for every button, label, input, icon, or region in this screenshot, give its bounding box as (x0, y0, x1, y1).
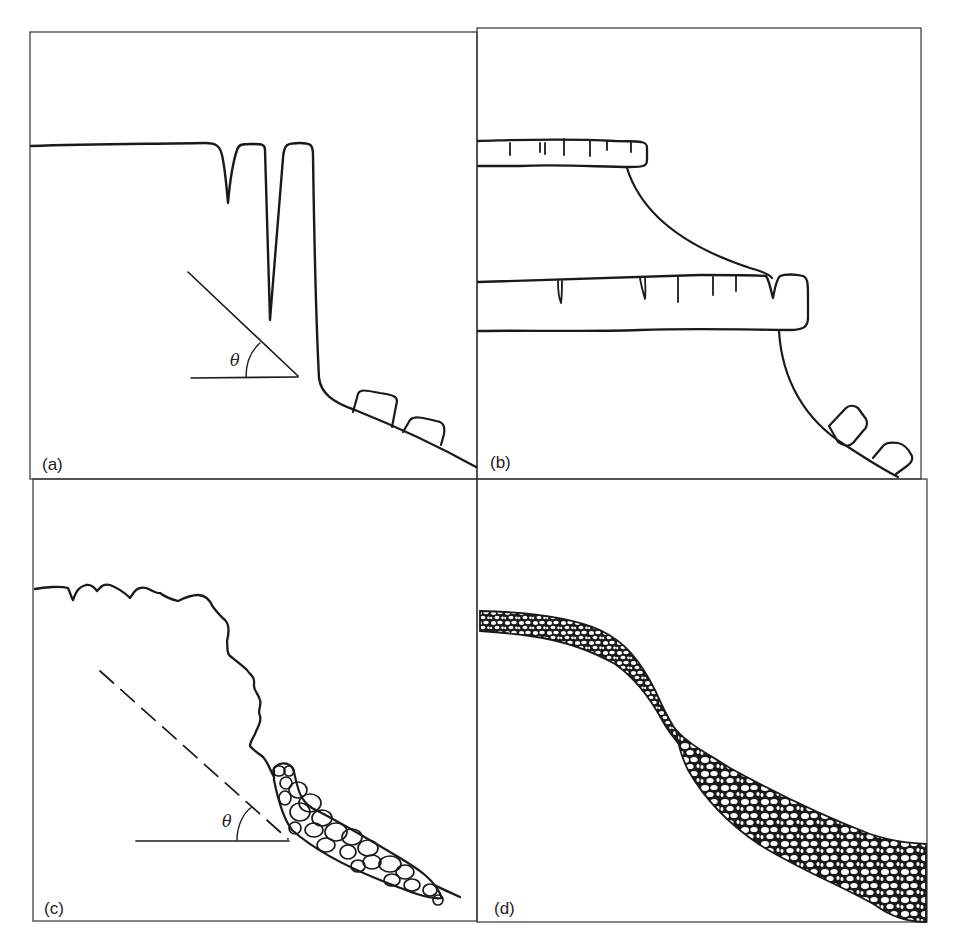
regolith-layer-lower (676, 730, 926, 922)
theta-label-c: θ (222, 812, 232, 831)
panel-label-b: (b) (490, 453, 511, 472)
theta-label-a: θ (230, 351, 240, 370)
regolith-layer-upper (480, 611, 688, 755)
panel-d: (d) (480, 611, 926, 922)
panel-a: θ (a) (31, 143, 476, 474)
panel-b: (b) (478, 139, 912, 477)
slope-diagram-figure: θ (a) (b) θ (0, 0, 956, 952)
panel-c: θ (c) (35, 585, 460, 918)
panel-frames (30, 28, 927, 922)
panel-label-a: (a) (42, 455, 63, 474)
panel-label-d: (d) (494, 899, 515, 918)
panel-label-c: (c) (44, 899, 64, 918)
